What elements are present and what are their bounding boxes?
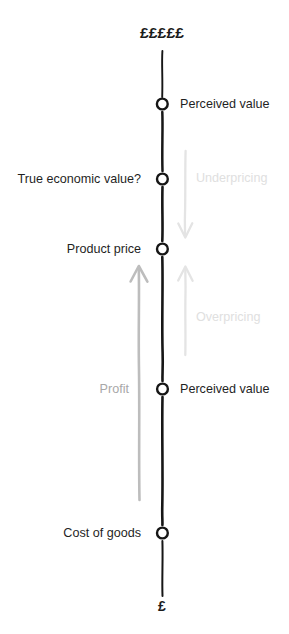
pricing-value-ladder-diagram: £££££ £ Perceived value True economic va… <box>0 0 289 634</box>
node-marker-product-price <box>157 244 168 255</box>
axis-line <box>162 51 163 596</box>
scale-top-label: £££££ <box>100 24 224 42</box>
label-true-economic-value: True economic value? <box>18 173 141 186</box>
node-marker-perceived-value-high <box>157 99 168 110</box>
label-cost-of-goods: Cost of goods <box>63 527 141 540</box>
node-marker-true-economic-value <box>157 174 168 185</box>
scale-bottom-label: £ <box>122 598 202 614</box>
node-marker-cost-of-goods <box>157 528 168 539</box>
label-overpricing: Overpricing <box>196 311 260 324</box>
node-marker-perceived-value-low <box>157 384 168 395</box>
label-underpricing: Underpricing <box>196 172 267 185</box>
label-product-price: Product price <box>67 243 141 256</box>
label-profit: Profit <box>100 383 129 396</box>
label-perceived-value-low: Perceived value <box>180 383 270 396</box>
label-perceived-value-high: Perceived value <box>180 98 270 111</box>
